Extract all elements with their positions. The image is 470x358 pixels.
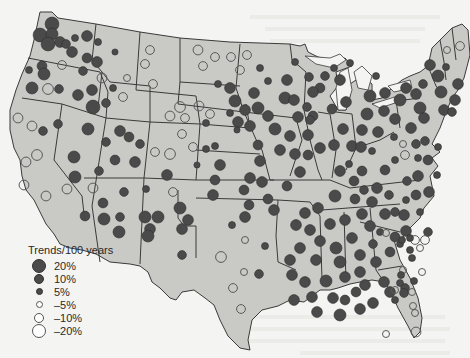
increase-symbol	[292, 59, 299, 66]
increase-symbol	[308, 87, 319, 98]
increase-symbol	[210, 175, 220, 185]
increase-symbol	[373, 73, 380, 80]
increase-symbol	[340, 215, 351, 226]
increase-symbol	[365, 221, 376, 232]
increase-symbol	[424, 228, 433, 237]
increase-symbol	[293, 112, 304, 123]
increase-symbol	[55, 85, 64, 94]
increase-symbol	[392, 297, 399, 304]
increase-symbol	[414, 102, 426, 114]
increase-symbol	[245, 121, 256, 132]
increase-symbol	[26, 67, 33, 74]
filled-circle-icon	[34, 274, 44, 284]
increase-symbol	[162, 170, 173, 181]
increase-symbol	[98, 198, 108, 208]
filled-circle-icon	[36, 288, 43, 295]
increase-symbol	[417, 209, 424, 216]
increase-symbol	[183, 215, 194, 226]
increase-symbol	[315, 143, 326, 154]
increase-symbol	[255, 156, 266, 167]
increase-symbol	[360, 280, 371, 291]
increase-symbol	[240, 212, 251, 223]
increase-symbol	[262, 243, 269, 250]
increase-symbol	[398, 272, 405, 279]
increase-symbol	[73, 90, 84, 101]
increase-symbol	[385, 191, 394, 200]
increase-symbol	[269, 205, 280, 216]
increase-symbol	[347, 60, 354, 67]
increase-symbol	[95, 39, 102, 46]
increase-symbol	[203, 120, 210, 127]
increase-symbol	[249, 88, 260, 99]
increase-symbol	[406, 123, 417, 134]
increase-symbol	[373, 127, 384, 138]
increase-symbol	[409, 255, 416, 262]
increase-symbol	[372, 183, 383, 194]
increase-symbol	[130, 157, 141, 168]
increase-symbol	[295, 243, 306, 254]
increase-symbol	[392, 157, 399, 164]
increase-symbol	[307, 292, 318, 303]
increase-symbol	[257, 65, 264, 72]
increase-symbol	[335, 75, 346, 86]
decrease-symbol	[417, 245, 424, 252]
increase-symbol	[425, 60, 436, 71]
increase-symbol	[351, 287, 361, 297]
increase-symbol	[355, 250, 366, 261]
increase-symbol	[113, 226, 125, 238]
increase-symbol	[282, 75, 293, 86]
increase-symbol	[303, 150, 313, 160]
increase-symbol	[174, 202, 186, 214]
increase-symbol	[289, 95, 300, 106]
increase-symbol	[385, 287, 396, 298]
increase-symbol	[424, 187, 435, 198]
increase-symbol	[69, 171, 81, 183]
increase-symbol	[443, 64, 450, 71]
increase-symbol	[253, 140, 263, 150]
increase-symbol	[379, 277, 390, 288]
decrease-symbol	[421, 236, 430, 245]
increase-symbol	[369, 148, 376, 155]
increase-symbol	[330, 242, 342, 254]
increase-symbol	[203, 146, 210, 153]
increase-symbol	[289, 295, 300, 306]
increase-symbol	[263, 194, 273, 204]
legend-item-pos-5: 5%	[28, 285, 138, 298]
legend-item-neg-5: –5%	[28, 298, 138, 311]
increase-symbol	[215, 160, 226, 171]
increase-symbol	[275, 145, 286, 156]
increase-symbol	[453, 79, 464, 90]
increase-symbol	[340, 272, 351, 283]
increase-symbol	[421, 137, 430, 146]
increase-symbol	[313, 203, 324, 214]
increase-symbol	[95, 167, 104, 176]
open-circle-icon	[32, 324, 46, 338]
increase-symbol	[178, 251, 187, 260]
increase-symbol	[329, 190, 341, 202]
increase-symbol	[448, 108, 457, 117]
increase-symbol	[252, 102, 264, 114]
increase-symbol	[347, 233, 358, 244]
increase-symbol	[212, 143, 219, 150]
increase-symbol	[300, 277, 311, 288]
increase-symbol	[394, 94, 406, 106]
increase-symbol	[385, 247, 395, 257]
increase-symbol	[26, 82, 38, 94]
increase-symbol	[415, 155, 422, 162]
increase-symbol	[350, 194, 360, 204]
increase-symbol	[357, 166, 367, 176]
increase-symbol	[72, 35, 79, 42]
increase-symbol	[305, 225, 316, 236]
increase-symbol	[400, 289, 409, 298]
increase-symbol	[357, 125, 368, 136]
increase-symbol	[403, 177, 412, 186]
increase-symbol	[290, 149, 301, 160]
increase-symbol	[413, 171, 424, 182]
increase-symbol	[208, 190, 219, 201]
increase-symbol	[82, 123, 94, 135]
legend: Trends/100 years 20% 10% 5% –5% –10% –20…	[28, 244, 138, 337]
increase-symbol	[303, 103, 312, 112]
increase-symbol	[41, 37, 55, 51]
increase-symbol	[360, 186, 369, 195]
increase-symbol	[80, 211, 90, 221]
